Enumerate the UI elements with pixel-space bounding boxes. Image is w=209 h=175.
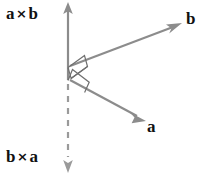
b-cross-a-arrowhead-icon xyxy=(63,160,73,173)
axis-b-cross-a xyxy=(63,84,73,173)
vector-diagram: a×b b×a b a xyxy=(0,0,209,175)
label-a-cross-b: a×b xyxy=(6,5,38,22)
label-b-cross-a-right: a xyxy=(29,147,38,166)
vector-a-shaft xyxy=(70,80,137,116)
label-a-cross-b-left: a xyxy=(6,4,15,23)
vector-a-arrow xyxy=(70,80,146,123)
right-angle-marker-upper xyxy=(68,56,88,79)
label-b-cross-a-left: b xyxy=(6,147,16,166)
vector-a-arrowhead-icon xyxy=(130,113,146,124)
label-vector-a: a xyxy=(147,118,156,135)
cross-product-operator-icon: × xyxy=(16,149,29,164)
label-vector-b: b xyxy=(186,10,196,27)
label-a-cross-b-right: b xyxy=(28,4,38,23)
cross-product-operator-icon: × xyxy=(15,6,28,21)
label-b-cross-a: b×a xyxy=(6,148,38,165)
vector-b-arrow xyxy=(70,23,182,66)
